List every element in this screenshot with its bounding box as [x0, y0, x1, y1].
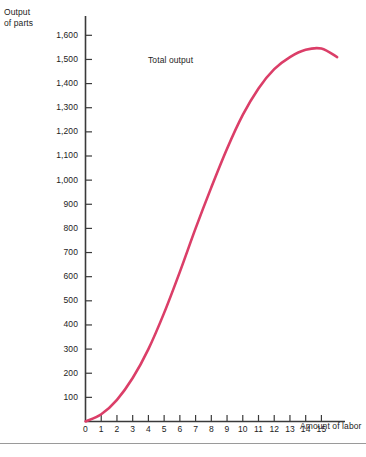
y-tick-label: 800 [44, 223, 78, 233]
x-tick-label: 7 [188, 424, 204, 434]
y-tick-label: 1,600 [44, 30, 78, 40]
x-tick-label: 9 [219, 424, 235, 434]
y-tick-label: 1,500 [44, 54, 78, 64]
x-tick-label: 8 [203, 424, 219, 434]
y-tick-marks [86, 35, 93, 397]
x-tick-label: 5 [156, 424, 172, 434]
x-tick-label: 14 [298, 424, 314, 434]
x-tick-label: 0 [78, 424, 94, 434]
x-tick-label: 4 [140, 424, 156, 434]
y-tick-label: 900 [44, 199, 78, 209]
x-tick-label: 3 [125, 424, 141, 434]
page-divider-rule [0, 443, 366, 444]
y-tick-label: 1,200 [44, 126, 78, 136]
x-tick-label: 13 [282, 424, 298, 434]
x-tick-label: 15 [313, 424, 329, 434]
y-axis-title-line-1: Output [4, 7, 52, 18]
y-tick-label: 1,000 [44, 175, 78, 185]
x-tick-label: 2 [109, 424, 125, 434]
y-tick-label: 500 [44, 295, 78, 305]
x-tick-label: 1 [93, 424, 109, 434]
y-tick-label: 700 [44, 247, 78, 257]
x-tick-label: 10 [235, 424, 251, 434]
x-tick-label: 11 [251, 424, 267, 434]
series-line-total-output [86, 48, 338, 421]
x-tick-label: 6 [172, 424, 188, 434]
y-tick-label: 300 [44, 344, 78, 354]
series-annotation-total-output: Total output [148, 55, 193, 65]
y-tick-label: 1,300 [44, 102, 78, 112]
y-tick-label: 600 [44, 271, 78, 281]
y-tick-label: 100 [44, 392, 78, 402]
y-tick-label: 1,100 [44, 150, 78, 160]
y-tick-label: 200 [44, 368, 78, 378]
x-tick-label: 12 [266, 424, 282, 434]
chart-figure: Output of parts Total output Amount of l… [0, 0, 366, 457]
y-tick-label: 400 [44, 319, 78, 329]
x-tick-marks [101, 415, 321, 422]
y-axis [86, 16, 93, 422]
y-tick-label: 1,400 [44, 78, 78, 88]
y-axis-title: Output of parts [4, 7, 52, 29]
y-axis-title-line-2: of parts [4, 18, 52, 29]
